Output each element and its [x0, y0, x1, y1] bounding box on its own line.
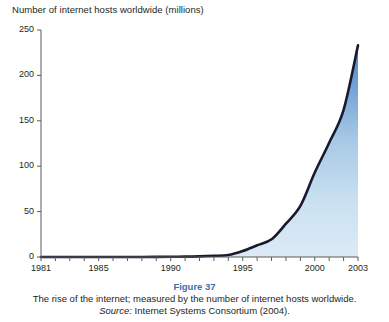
x-axis-tick-label: 1990	[151, 263, 191, 273]
x-axis-tick-label: 1981	[21, 263, 61, 273]
area-chart-svg	[0, 18, 389, 268]
x-axis-tick-label: 1985	[79, 263, 119, 273]
source-label: Source:	[99, 305, 132, 316]
x-axis-tick-label: 2003	[338, 263, 378, 273]
area-fill-path	[228, 45, 358, 257]
x-axis-tick-label: 1995	[223, 263, 263, 273]
y-axis-tick-label: 50	[8, 206, 34, 216]
figure-number: Figure 37	[0, 281, 389, 293]
y-axis-tick-label: 250	[8, 24, 34, 34]
caption-source: Source: Internet Systems Consortium (200…	[0, 305, 389, 317]
y-axis-tick-label: 150	[8, 115, 34, 125]
y-axis-tick-label: 200	[8, 69, 34, 79]
y-axis	[37, 30, 41, 257]
y-axis-title: Number of internet hosts worldwide (mill…	[12, 4, 204, 15]
y-axis-tick-label: 0	[8, 251, 34, 261]
y-axis-tick-label: 100	[8, 160, 34, 170]
figure-caption: Figure 37 The rise of the internet; meas…	[0, 281, 389, 317]
caption-description: The rise of the internet; measured by th…	[0, 293, 389, 305]
area-fill	[228, 45, 358, 257]
x-axis-tick-label: 2000	[295, 263, 335, 273]
source-value: Internet Systems Consortium (2004).	[135, 305, 290, 316]
figure-37: Number of internet hosts worldwide (mill…	[0, 0, 389, 322]
chart-plot-area: 050100150200250 198119851990199520002003	[0, 18, 389, 268]
